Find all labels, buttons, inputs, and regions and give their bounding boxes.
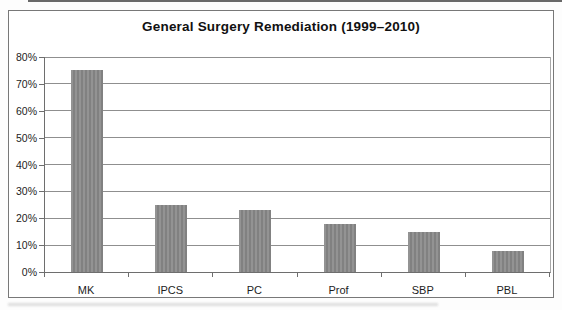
x-axis-tick-3 xyxy=(297,273,298,277)
gridline-60 xyxy=(45,110,550,111)
chart-title: General Surgery Remediation (1999–2010) xyxy=(9,19,553,34)
x-axis-tick-0 xyxy=(44,273,45,277)
gridline-50 xyxy=(45,137,550,138)
bar-IPCS xyxy=(155,205,187,272)
plot-area xyxy=(44,57,551,273)
scan-artifact-top-line xyxy=(28,0,562,2)
y-axis-label-70: 70% xyxy=(3,79,37,89)
scan-artifact-bottom-smudge xyxy=(8,303,438,306)
y-axis-label-80: 80% xyxy=(3,52,37,62)
x-axis-tick-2 xyxy=(212,273,213,277)
gridline-30 xyxy=(45,191,550,192)
bar-MK xyxy=(71,70,103,272)
y-axis-tick-80 xyxy=(39,57,44,58)
x-axis-label-IPCS: IPCS xyxy=(128,284,212,296)
y-axis-label-50: 50% xyxy=(3,133,37,143)
gridline-70 xyxy=(45,83,550,84)
y-axis-tick-30 xyxy=(39,191,44,192)
bar-PBL xyxy=(492,251,524,273)
y-axis-tick-60 xyxy=(39,111,44,112)
y-axis-tick-10 xyxy=(39,245,44,246)
y-axis-label-30: 30% xyxy=(3,186,37,196)
y-axis-label-0: 0% xyxy=(3,267,37,277)
figure-canvas: General Surgery Remediation (1999–2010) … xyxy=(0,0,562,310)
x-axis-label-SBP: SBP xyxy=(381,284,465,296)
y-axis-label-10: 10% xyxy=(3,240,37,250)
x-axis-label-Prof: Prof xyxy=(297,284,381,296)
bar-PC xyxy=(239,210,271,272)
gridline-40 xyxy=(45,164,550,165)
x-axis-tick-4 xyxy=(381,273,382,277)
bar-Prof xyxy=(324,224,356,272)
x-axis-tick-1 xyxy=(128,273,129,277)
y-axis-tick-40 xyxy=(39,165,44,166)
gridline-80 xyxy=(45,57,550,58)
y-axis-tick-70 xyxy=(39,84,44,85)
x-axis-label-PBL: PBL xyxy=(465,284,549,296)
x-axis-tick-5 xyxy=(465,273,466,277)
y-axis-label-40: 40% xyxy=(3,160,37,170)
x-axis-tick-6 xyxy=(549,273,550,277)
x-axis-label-PC: PC xyxy=(212,284,296,296)
y-axis-label-60: 60% xyxy=(3,106,37,116)
gridline-20 xyxy=(45,218,550,219)
chart-frame: General Surgery Remediation (1999–2010) … xyxy=(8,10,554,298)
gridline-10 xyxy=(45,245,550,246)
bar-SBP xyxy=(408,232,440,272)
y-axis-tick-50 xyxy=(39,138,44,139)
y-axis-tick-20 xyxy=(39,218,44,219)
y-axis-label-20: 20% xyxy=(3,213,37,223)
x-axis-label-MK: MK xyxy=(44,284,128,296)
